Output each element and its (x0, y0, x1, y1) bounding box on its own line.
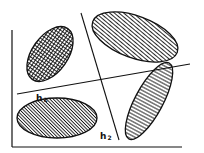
cluster-bottom-left-diagonal (17, 98, 97, 138)
label-h2: h2 (100, 131, 112, 141)
cluster-top-left-crosshatch (17, 18, 82, 89)
cluster-top-right-horizontal (86, 2, 185, 72)
diagram-canvas: h1 h2 (0, 0, 204, 153)
cluster-bottom-right-vertical (116, 56, 181, 145)
label-h1: h1 (36, 93, 48, 103)
